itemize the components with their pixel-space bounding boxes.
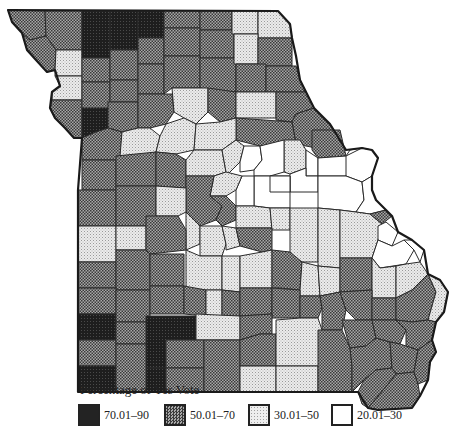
legend-swatch-checker <box>164 404 186 426</box>
county <box>186 150 226 176</box>
county <box>222 290 240 316</box>
county <box>150 286 184 314</box>
county <box>240 288 272 316</box>
county <box>200 11 232 30</box>
county <box>82 160 116 190</box>
legend-swatch-dark <box>78 404 100 426</box>
county <box>78 190 116 226</box>
legend-label: 30.01–50 <box>274 408 319 423</box>
county <box>166 340 204 368</box>
county <box>200 30 234 58</box>
county <box>164 28 200 56</box>
county <box>234 34 258 64</box>
county <box>110 80 138 102</box>
county <box>116 152 156 186</box>
county <box>270 208 290 230</box>
county <box>318 330 352 392</box>
county <box>138 38 164 64</box>
county <box>300 262 320 296</box>
county <box>82 82 110 108</box>
county <box>78 262 116 288</box>
county <box>116 322 150 344</box>
legend-swatch-light <box>248 404 270 426</box>
county <box>240 366 276 392</box>
county <box>146 216 186 254</box>
county <box>236 228 272 252</box>
legend-swatch-white <box>331 404 353 426</box>
county <box>318 208 340 268</box>
county <box>78 226 116 262</box>
county <box>240 334 276 366</box>
county <box>236 206 272 228</box>
county <box>116 250 150 290</box>
county <box>78 314 116 340</box>
county <box>204 340 240 392</box>
legend-label: 50.01–70 <box>190 408 235 423</box>
county <box>110 11 138 50</box>
legend: 70.01–90 50.01–70 30.01–50 20.01–30 <box>78 404 464 428</box>
county <box>318 266 340 296</box>
county <box>300 296 322 318</box>
county <box>240 250 272 288</box>
legend-label: 70.01–90 <box>104 408 149 423</box>
choropleth-map <box>0 0 464 439</box>
county <box>290 208 318 262</box>
county <box>372 298 396 320</box>
county <box>206 290 222 316</box>
county <box>272 288 300 318</box>
county <box>116 226 146 250</box>
county <box>82 11 110 58</box>
county <box>312 130 346 158</box>
county <box>186 250 222 290</box>
county <box>138 11 164 38</box>
county <box>200 58 236 92</box>
county <box>150 254 184 286</box>
county <box>138 64 164 94</box>
county <box>156 152 186 188</box>
legend-title: Percentage of Yes Vote <box>80 382 199 398</box>
county <box>236 92 276 118</box>
county <box>340 258 372 292</box>
county <box>318 176 364 212</box>
county <box>200 226 226 256</box>
county <box>78 340 116 366</box>
county <box>156 186 186 216</box>
county <box>78 288 116 314</box>
legend-label: 20.01–30 <box>357 408 402 423</box>
county <box>236 64 266 92</box>
county <box>184 286 206 316</box>
county-layer <box>8 10 448 410</box>
county <box>108 102 138 132</box>
county <box>258 38 292 66</box>
county <box>258 11 292 38</box>
county <box>276 318 322 366</box>
county <box>172 88 208 124</box>
county <box>82 58 110 82</box>
county <box>110 50 138 80</box>
county <box>208 88 236 122</box>
county <box>222 256 240 292</box>
county <box>164 11 200 28</box>
county <box>232 11 258 34</box>
county <box>276 366 318 392</box>
county <box>196 314 240 340</box>
county <box>116 290 150 322</box>
county <box>270 176 290 192</box>
county <box>55 50 82 76</box>
